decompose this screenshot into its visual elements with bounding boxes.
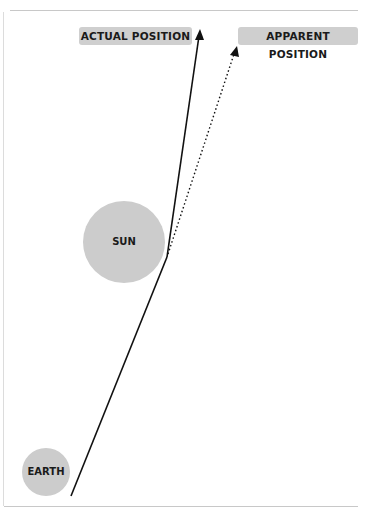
apparent-position-label: APPARENT POSITION <box>238 27 358 45</box>
sun-label: SUN <box>104 236 144 247</box>
apparent-position-arrow <box>168 54 234 254</box>
actual-arrowhead-icon <box>195 29 204 40</box>
actual-position-label: ACTUAL POSITION <box>79 27 192 45</box>
actual-position-arrow <box>167 36 199 257</box>
earth-label: EARTH <box>22 466 70 477</box>
apparent-arrowhead-icon <box>230 46 239 57</box>
light-path-line <box>71 257 167 496</box>
diagram-canvas <box>0 0 368 513</box>
